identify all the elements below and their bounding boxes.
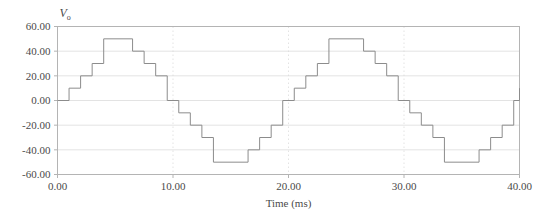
y-axis-title: Vo [60,6,71,22]
x-axis-tick-label: 30.00 [392,180,417,192]
y-axis-tick-label: -60.00 [22,168,51,180]
chart-canvas: -60.00-40.00-20.000.0020.0040.0060.000.0… [0,0,534,212]
y-axis-tick-label: -40.00 [22,144,51,156]
x-axis-tick-label: 0.00 [48,180,68,192]
axis-labels-group: -60.00-40.00-20.000.0020.0040.0060.000.0… [22,6,532,210]
x-axis-tick-label: 10.00 [161,180,186,192]
y-axis-tick-label: 60.00 [26,20,51,32]
y-axis-tick-label: -20.00 [22,119,51,131]
y-axis-tick-label: 40.00 [26,45,51,57]
stepped-sine-chart: -60.00-40.00-20.000.0020.0040.0060.000.0… [0,0,534,212]
y-axis-tick-label: 0.00 [31,94,51,106]
y-axis-tick-label: 20.00 [26,70,51,82]
x-axis-title: Time (ms) [266,197,312,210]
y-axis-title-subscript: o [67,13,71,22]
x-axis-tick-label: 40.00 [507,180,532,192]
x-axis-tick-label: 20.00 [276,180,301,192]
tick-marks-group [54,27,520,179]
